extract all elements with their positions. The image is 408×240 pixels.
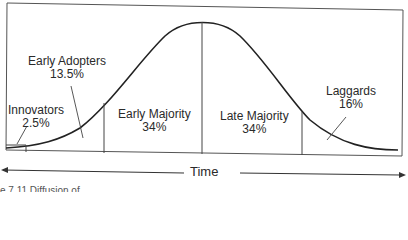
label-late-majority: Late Majority 34% bbox=[220, 110, 289, 136]
time-axis-right bbox=[240, 173, 400, 175]
figure-caption: e 7.11 Diffusion of bbox=[0, 185, 80, 192]
arrow-left-icon bbox=[1, 167, 8, 173]
label-early-majority: Early Majority 34% bbox=[118, 108, 191, 134]
label-laggards: Laggards 16% bbox=[326, 85, 376, 111]
label-innovators: Innovators 2.5% bbox=[8, 104, 64, 130]
time-axis-left bbox=[3, 170, 184, 173]
label-early-adopters: Early Adopters 13.5% bbox=[28, 55, 106, 81]
arrow-right-icon bbox=[399, 172, 406, 178]
time-axis-label: Time bbox=[190, 165, 218, 178]
